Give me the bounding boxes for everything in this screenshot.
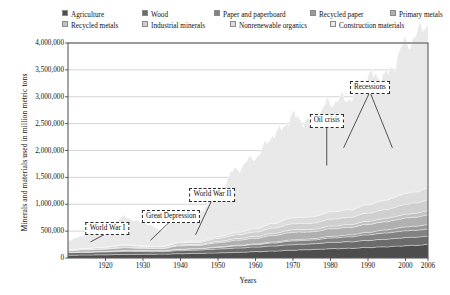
x-axis-tick-label: 1950	[198, 262, 238, 270]
annotation-callout: Great Depression	[142, 210, 200, 224]
materials-use-stacked-area-chart: AgricultureWoodPaper and paperboardRecyc…	[0, 0, 450, 295]
x-axis-tick-label: 1920	[86, 262, 126, 270]
annotation-callout: Recessions	[350, 81, 390, 95]
x-axis-tick-label: 1990	[348, 262, 388, 270]
annotation-callout: World War II	[189, 188, 235, 202]
x-axis-title: Years	[68, 276, 428, 285]
plot-area	[0, 0, 450, 295]
annotation-callout: World War I	[86, 222, 129, 236]
annotation-callout: Oil crisis	[310, 114, 344, 128]
x-axis-tick-label: 1940	[161, 262, 201, 270]
x-axis-tick-label: 1930	[123, 262, 163, 270]
x-axis-tick-label: 2006	[408, 262, 448, 270]
x-axis-tick-label: 1970	[273, 262, 313, 270]
x-axis-tick-label: 1980	[311, 262, 351, 270]
x-axis-tick-label: 1960	[236, 262, 276, 270]
